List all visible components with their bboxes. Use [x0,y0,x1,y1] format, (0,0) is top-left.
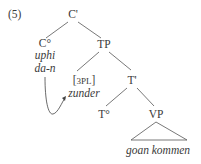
node-t-bar: T' [127,74,136,86]
syntax-tree: (5) C' C° uphi da-n TP [3PL] zunder T' T… [0,0,201,164]
edge-tp-subject [77,52,99,71]
node-c-bar: C' [68,8,78,20]
edge-cbar-tp [78,22,101,38]
edge-tp-tbar [109,52,131,70]
vp-content: goan kommen [126,144,190,157]
node-tp: TP [97,38,110,50]
edge-tbar-vp [137,88,154,106]
node-c-head: C° [39,37,52,49]
edge-tbar-thead [106,88,127,106]
subject-zunder: zunder [67,87,100,99]
vp-triangle [131,122,187,140]
c-word-dan: da-n [34,62,55,74]
edge-cbar-chead [46,22,68,38]
c-word-uphi: uphi [35,49,55,62]
example-number: (5) [8,8,22,21]
node-t-head: T° [98,108,110,120]
movement-arrow [45,77,65,114]
subject-feature: [3PL] [73,74,96,86]
node-vp: VP [149,108,164,120]
